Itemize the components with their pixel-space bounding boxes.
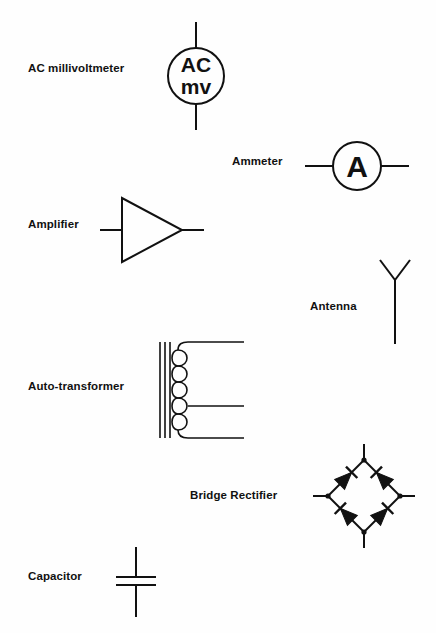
amplifier-triangle-body xyxy=(122,198,182,262)
label-antenna: Antenna xyxy=(310,300,357,313)
label-capacitor: Capacitor xyxy=(28,570,82,583)
symbol-auto-transformer xyxy=(156,340,244,440)
auto-transformer-coil-turn-1 xyxy=(172,350,187,366)
bridge-rectifier-node-right xyxy=(397,493,402,498)
auto-transformer-coil-turn-3 xyxy=(172,382,187,398)
auto-transformer-coil-turn-4 xyxy=(172,398,187,414)
auto-transformer-tap-top xyxy=(178,342,244,350)
symbol-bridge-rectifier xyxy=(305,444,423,548)
auto-transformer-coil-turn-5 xyxy=(172,414,187,430)
symbol-capacitor xyxy=(110,547,162,617)
bridge-rectifier-node-bottom xyxy=(361,529,366,534)
symbol-amplifier xyxy=(100,194,204,266)
bridge-rectifier-node-left xyxy=(325,493,330,498)
auto-transformer-coil-turn-2 xyxy=(172,366,187,382)
symbol-sheet: AC millivoltmeter AC mv Ammeter A Amplif… xyxy=(0,0,436,633)
ac-millivoltmeter-text-ac: AC xyxy=(181,53,211,76)
auto-transformer-tap-bottom xyxy=(178,430,244,438)
symbol-ammeter: A xyxy=(305,140,409,192)
antenna-element-right xyxy=(395,260,410,280)
symbol-ac-millivoltmeter: AC mv xyxy=(160,22,232,130)
symbol-antenna xyxy=(372,258,418,344)
antenna-element-left xyxy=(380,260,395,280)
ac-millivoltmeter-text-mv: mv xyxy=(181,75,212,98)
label-bridge-rectifier: Bridge Rectifier xyxy=(190,489,277,502)
label-auto-transformer: Auto-transformer xyxy=(28,380,124,393)
bridge-rectifier-node-top xyxy=(361,457,366,462)
ammeter-text-a: A xyxy=(346,150,368,183)
label-ammeter: Ammeter xyxy=(232,155,283,168)
label-amplifier: Amplifier xyxy=(28,218,79,231)
label-ac-millivoltmeter: AC millivoltmeter xyxy=(28,62,124,75)
